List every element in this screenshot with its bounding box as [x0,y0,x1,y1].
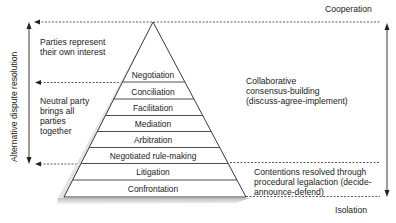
level-facilitation: Facilitation [133,103,173,113]
arrow-up-icon [385,23,390,30]
level-conciliation: Conciliation [131,87,175,97]
arrow-left-icon [35,162,41,167]
isolation-label: Isolation [335,205,367,215]
level-confrontation: Confrontation [128,184,179,194]
level-arbitration: Arbitration [134,135,173,145]
pyramid-shadow [57,198,250,204]
arrow-left-icon [35,80,41,85]
left-axis-label: Alternative dispute resolution [9,51,19,162]
arrow-left-top-icon [34,20,40,25]
left-note-lower: Neutral party brings all parties togethe… [40,96,92,136]
arrow-up-icon [27,22,32,29]
arrow-down-icon [27,157,32,164]
level-mediation: Mediation [135,119,172,129]
adr-pyramid-diagram: Cooperation Alternative dispute resoluti… [0,0,396,223]
cooperation-label: Cooperation [325,4,372,14]
left-note-upper: Parties represent their own interest [40,37,108,57]
right-note-lower: Contentions resolved through procedural … [254,167,374,197]
level-negotiated-rule-making: Negotiated rule-making [110,151,197,161]
level-litigation: Litigation [136,167,170,177]
right-note-upper: Collaborative consensus-building (discus… [246,76,348,106]
arrow-down-icon [385,190,390,197]
level-negotiation: Negotiation [132,70,175,80]
